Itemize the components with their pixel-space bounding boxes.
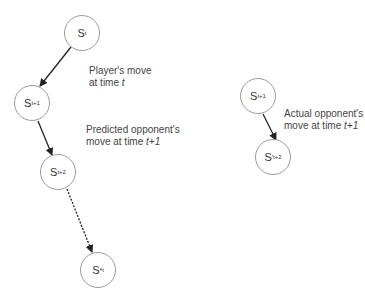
node-s-star-t: S*t	[80, 252, 116, 288]
node-subscript: t+2	[273, 154, 282, 160]
label-actual-opponent-move: Actual opponent's move at time t+1	[284, 108, 363, 132]
node-s-t-plus-1: St+1	[14, 85, 50, 121]
node-subscript: t	[85, 30, 87, 36]
node-base: S	[250, 90, 257, 102]
edge-actual-st1-to-sprime	[263, 114, 276, 140]
node-base: S	[24, 97, 31, 109]
node-s-t-plus-2: St+2	[40, 154, 76, 190]
label-line: move at time	[86, 136, 146, 147]
label-variable: t	[122, 77, 125, 88]
edges-layer	[0, 0, 365, 301]
edge-st2-to-sstar	[67, 189, 92, 252]
label-player-move: Player's move at time t	[89, 65, 152, 89]
node-base: S	[264, 151, 271, 163]
label-line: Predicted opponent's	[86, 124, 180, 136]
node-base: S	[92, 264, 99, 276]
label-line: at time	[89, 77, 122, 88]
node-subscript: t+1	[31, 100, 40, 106]
label-variable: t+1	[146, 136, 160, 147]
label-line: move at time	[284, 120, 344, 131]
edge-st-to-st1	[40, 47, 71, 86]
label-line: Player's move	[89, 65, 152, 77]
label-variable: t+1	[344, 120, 358, 131]
node-subscript: t	[102, 267, 104, 273]
node-actual-s-t-plus-1: St+1	[240, 78, 276, 114]
game-tree-diagram: St St+1 St+2 S*t St+1 S't+2 Player's mov…	[0, 0, 365, 301]
node-s-t: St	[64, 15, 100, 51]
node-s-prime-t-plus-2: S't+2	[255, 139, 291, 175]
node-subscript: t+1	[257, 93, 266, 99]
label-line: Actual opponent's	[284, 108, 363, 120]
node-base: S	[77, 27, 84, 39]
label-predicted-opponent-move: Predicted opponent's move at time t+1	[86, 124, 180, 148]
node-subscript: t+2	[57, 169, 66, 175]
node-base: S	[50, 166, 57, 178]
edge-st1-to-st2	[38, 121, 52, 155]
